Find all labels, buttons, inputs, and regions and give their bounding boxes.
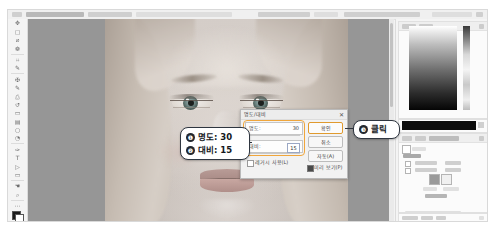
path-selection-tool[interactable]: ▷: [8, 162, 27, 170]
crop-tool[interactable]: ⌗: [8, 56, 27, 64]
background-color-swatch[interactable]: [15, 214, 24, 222]
callout-text-brightness: 명도: 30: [198, 132, 232, 143]
panel-collapse-icon[interactable]: [479, 216, 484, 220]
step-badge-1: ❶: [186, 133, 195, 142]
properties-preview[interactable]: [398, 119, 488, 133]
marquee-tool[interactable]: ▢: [8, 27, 27, 35]
preview-checkbox[interactable]: 미리 보기(P): [307, 164, 343, 172]
brightness-label: 명도:: [249, 125, 261, 132]
status-panel[interactable]: [398, 213, 488, 222]
marquee-tool-icon: ▢: [13, 29, 22, 35]
gradient-tool[interactable]: ▤: [8, 117, 27, 125]
step-badge-2: ❷: [186, 146, 195, 155]
options-bar-segment: [12, 12, 22, 17]
tool-divider: [11, 200, 24, 201]
hand-tool-icon: ☚: [13, 183, 22, 189]
tab-channels[interactable]: [415, 136, 426, 141]
hand-tool[interactable]: ☚: [8, 182, 27, 190]
options-bar-segment: [136, 12, 232, 17]
layers-panel[interactable]: [398, 133, 488, 213]
eraser-tool-icon: ▭: [13, 110, 22, 116]
move-tool[interactable]: ✥: [8, 19, 27, 27]
layer-row[interactable]: [399, 192, 487, 199]
lasso-tool-icon: ⌀: [13, 37, 22, 43]
brush-tool[interactable]: ✎: [8, 84, 27, 92]
background-layer-label: [425, 194, 447, 198]
brush-tool-icon: ✎: [13, 85, 22, 91]
properties-expand-icon[interactable]: [478, 122, 484, 128]
photo-lower-lid: [173, 107, 210, 113]
quick-selection-tool[interactable]: ❁: [8, 44, 27, 52]
tools-panel[interactable]: ✥ ▢ ⌀ ❁ ⌗ ✎ ✠ ✎ ⎙ ↺ ▭ ▤ ○ ◔ ✑ T ▷ ▭ ☚ ⌕ …: [8, 19, 28, 221]
navigator-thumbnail[interactable]: [409, 26, 457, 110]
layer-name: [415, 168, 437, 172]
scrollbar-thumb[interactable]: [390, 23, 393, 107]
panel-menu-icon[interactable]: [479, 24, 484, 29]
blend-mode-label: [423, 187, 437, 191]
layer-row[interactable]: [399, 159, 487, 166]
contrast-value-input[interactable]: 15: [287, 143, 300, 153]
callout-line: ❶ 명도: 30: [181, 131, 249, 144]
options-bar-segment: [26, 12, 84, 17]
section-header-row[interactable]: [399, 152, 487, 159]
clone-stamp-tool[interactable]: ⎙: [8, 92, 27, 100]
navigator-panel[interactable]: [398, 21, 488, 119]
brightness-field[interactable]: 명도: 30: [245, 122, 303, 135]
contrast-field[interactable]: 대비: 15: [245, 140, 303, 153]
more-tools-button[interactable]: ⋯: [8, 202, 27, 210]
use-legacy-label: 레거시 사용(L): [255, 159, 288, 166]
cancel-button[interactable]: 취소: [308, 136, 343, 148]
callout-line: ❷ 대비: 15: [181, 144, 249, 157]
blur-tool[interactable]: ○: [8, 126, 27, 134]
layer-name: [415, 161, 437, 165]
status-segment: [402, 216, 418, 220]
tab-layers[interactable]: [402, 136, 412, 141]
tab-paths[interactable]: [429, 136, 459, 141]
options-bar-segment: [344, 12, 420, 17]
checkbox-box-checked[interactable]: [307, 165, 314, 172]
brightness-contrast-dialog[interactable]: 명도/대비 ✕ 명도: 30 대비: 15 레거시 사용(L): [240, 109, 348, 179]
callout-click: ❸ 클릭: [353, 120, 400, 139]
dialog-title: 명도/대비: [244, 111, 266, 118]
status-segment: [436, 216, 446, 220]
layers-filter-row[interactable]: [399, 145, 487, 152]
gradient-tool-icon: ▤: [13, 119, 22, 125]
type-tool[interactable]: T: [8, 154, 27, 162]
tool-divider: [11, 143, 24, 144]
contrast-slider[interactable]: [246, 153, 300, 154]
rectangle-tool[interactable]: ▭: [8, 171, 27, 179]
options-bar-segment: [432, 12, 472, 17]
spot-healing-tool-icon: ✠: [13, 77, 22, 83]
checkbox-box[interactable]: [247, 160, 254, 167]
photo-chin: [197, 199, 257, 219]
layer-thumbnail-row[interactable]: [399, 173, 487, 185]
layers-panel-tabs[interactable]: [399, 134, 487, 143]
use-legacy-checkbox[interactable]: 레거시 사용(L): [247, 158, 305, 167]
color-swatches[interactable]: [8, 210, 27, 222]
photo-eyelash: [239, 94, 284, 99]
photo-eye-left: [169, 93, 214, 112]
zoom-tool[interactable]: ⌕: [8, 190, 27, 198]
eraser-tool[interactable]: ▭: [8, 109, 27, 117]
dodge-tool[interactable]: ◔: [8, 134, 27, 142]
brightness-slider[interactable]: [246, 135, 300, 136]
dialog-title-bar[interactable]: 명도/대비 ✕: [241, 110, 347, 120]
options-bar-segment: [88, 12, 132, 17]
spot-healing-tool[interactable]: ✠: [8, 75, 27, 83]
panel-menu-icon[interactable]: [479, 136, 484, 141]
rectangle-tool-icon: ▭: [13, 172, 22, 178]
brightness-value: 30: [293, 125, 299, 132]
options-bar-segment: [476, 12, 483, 17]
ok-button[interactable]: 확인: [308, 122, 343, 134]
layer-row[interactable]: [399, 166, 487, 173]
auto-button[interactable]: 자동(A): [308, 150, 343, 162]
blend-mode-row[interactable]: [399, 185, 487, 192]
layer-mask-thumbnail[interactable]: [441, 174, 452, 185]
layer-thumbnail[interactable]: [429, 174, 440, 185]
pen-tool[interactable]: ✑: [8, 145, 27, 153]
lasso-tool[interactable]: ⌀: [8, 36, 27, 44]
history-brush-tool[interactable]: ↺: [8, 101, 27, 109]
blur-tool-icon: ○: [13, 127, 22, 133]
close-icon[interactable]: ✕: [338, 111, 345, 118]
eyedropper-tool[interactable]: ✎: [8, 64, 27, 72]
